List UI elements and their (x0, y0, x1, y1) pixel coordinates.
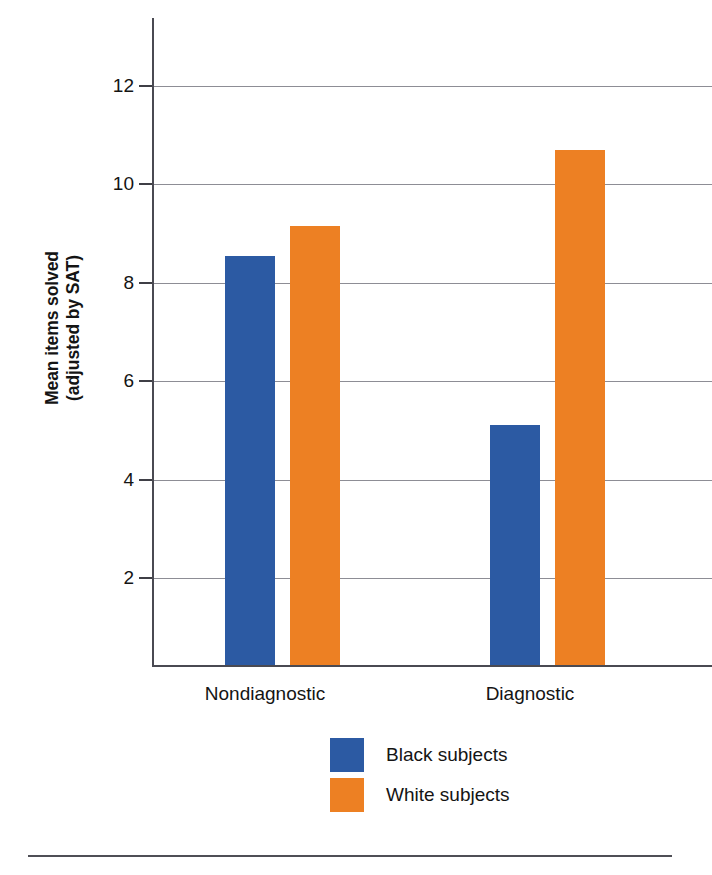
y-tick-label-8: 8 (123, 272, 134, 294)
y-tick-mark-8 (139, 282, 152, 284)
legend-label-white-subjects: White subjects (386, 784, 510, 806)
legend-label-black-subjects: Black subjects (386, 744, 507, 766)
legend-item-white-subjects: White subjects (330, 778, 510, 812)
y-axis-title: Mean items solved (adjusted by SAT) (35, 213, 91, 443)
legend-swatch-blue-icon (330, 738, 364, 772)
chart-legend: Black subjects White subjects (330, 738, 510, 812)
x-axis-line (152, 665, 712, 667)
y-tick-label-2: 2 (123, 567, 134, 589)
y-tick-label-4: 4 (123, 469, 134, 491)
legend-swatch-orange-icon (330, 778, 364, 812)
gridline-12 (154, 86, 712, 87)
x-axis-label-diagnostic: Diagnostic (486, 683, 575, 705)
y-tick-mark-6 (139, 380, 152, 382)
plot-area: 12108642 (152, 18, 712, 667)
x-axis-label-nondiagnostic: Nondiagnostic (205, 683, 325, 705)
bar-nondiagnostic-white (290, 226, 340, 665)
y-tick-mark-2 (139, 577, 152, 579)
y-tick-mark-4 (139, 479, 152, 481)
y-axis-title-line-2: (adjusted by SAT) (63, 255, 84, 401)
y-tick-label-6: 6 (123, 370, 134, 392)
y-axis-line (152, 18, 154, 667)
bar-diagnostic-white (555, 150, 605, 665)
bar-nondiagnostic-black (225, 256, 275, 665)
y-tick-label-10: 10 (113, 173, 134, 195)
y-axis-title-line-1: Mean items solved (42, 251, 63, 405)
y-tick-mark-12 (139, 85, 152, 87)
y-tick-mark-10 (139, 183, 152, 185)
bar-diagnostic-black (490, 425, 540, 665)
legend-item-black-subjects: Black subjects (330, 738, 510, 772)
caption-divider-rule (28, 855, 672, 857)
y-tick-label-12: 12 (113, 75, 134, 97)
gridline-10 (154, 184, 712, 185)
